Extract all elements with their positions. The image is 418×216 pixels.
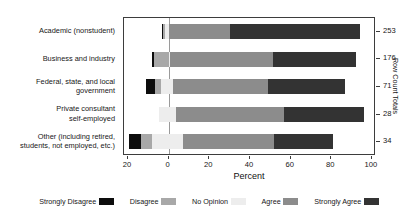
x-axis-tick [208,156,209,159]
bar-segment[interactable] [159,107,176,122]
legend: Strongly DisagreeDisagreeNo OpinionAgree… [0,194,418,208]
bar-segment[interactable] [161,79,173,94]
x-axis-tick [168,156,169,159]
y-axis-category-labels: Academic (nonstudent)Business and indust… [0,17,119,155]
right-axis-tick [376,58,380,59]
bar-segment[interactable] [169,24,230,39]
x-axis-tick-label: 20 [193,160,223,169]
legend-item[interactable]: Agree [262,197,299,206]
right-axis-title: Row Count Totals [391,58,400,114]
legend-item[interactable]: Strongly Disagree [39,197,114,206]
bar-segment[interactable] [154,52,169,67]
legend-color-swatch [99,198,114,205]
x-axis-title: Percent [123,171,375,181]
x-axis-tick-label: 80 [315,160,345,169]
bar-row [124,73,374,101]
legend-item[interactable]: Strongly Agree [314,197,379,206]
stacked-bar[interactable] [152,52,355,67]
category-label: Business and industry [0,45,115,73]
category-label: Other (including retired,students, not e… [0,127,115,155]
x-axis-tick-label: 40 [234,160,264,169]
right-axis-tick [376,141,380,142]
bar-segment[interactable] [284,107,364,122]
bar-row [124,101,374,129]
bar-segment[interactable] [141,134,152,149]
stacked-bar[interactable] [162,24,360,39]
bar-segment[interactable] [173,79,269,94]
bar-segment[interactable] [170,52,273,67]
legend-color-swatch [283,198,298,205]
bar-segment[interactable] [230,24,360,39]
bar-segment[interactable] [176,107,284,122]
x-axis-tick-label: 20 [112,160,142,169]
category-label: Private consultantself-employed [0,100,115,128]
legend-label: Strongly Agree [314,197,361,206]
bar-segment[interactable] [273,52,356,67]
bar-segment[interactable] [183,134,274,149]
row-count-total: 34 [383,136,391,146]
stacked-bar[interactable] [129,134,333,149]
right-axis-tick [376,31,380,32]
plot-area [123,17,375,155]
bar-row [124,18,374,46]
row-count-total: 253 [383,26,396,36]
legend-color-swatch [161,198,176,205]
x-axis-tick-label: 100 [356,160,386,169]
right-axis-tick [376,86,380,87]
x-axis-tick [371,156,372,159]
legend-label: No Opinion [192,197,228,206]
category-label: Academic (nonstudent) [0,17,115,45]
bar-segment[interactable] [268,79,345,94]
right-axis-tick [376,114,380,115]
bar-row [124,128,374,156]
stacked-bar[interactable] [159,107,364,122]
legend-item[interactable]: No Opinion [192,197,245,206]
bar-row [124,46,374,74]
x-axis-tick [290,156,291,159]
x-axis-tick [249,156,250,159]
x-axis-tick-label: 0 [153,160,183,169]
chart-title [0,0,418,1]
x-axis-tick [127,156,128,159]
legend-label: Strongly Disagree [39,197,96,206]
bar-segment[interactable] [152,134,182,149]
legend-label: Agree [262,197,281,206]
x-axis-tick-label: 60 [275,160,305,169]
stacked-bar[interactable] [146,79,345,94]
bar-segment[interactable] [146,79,155,94]
legend-color-swatch [231,198,246,205]
bar-segment[interactable] [274,134,333,149]
legend-color-swatch [364,198,379,205]
legend-item[interactable]: Disagree [130,197,176,206]
category-label: Federal, state, and localgovernment [0,72,115,100]
bar-segment[interactable] [129,134,141,149]
legend-label: Disagree [130,197,159,206]
x-axis-tick [330,156,331,159]
